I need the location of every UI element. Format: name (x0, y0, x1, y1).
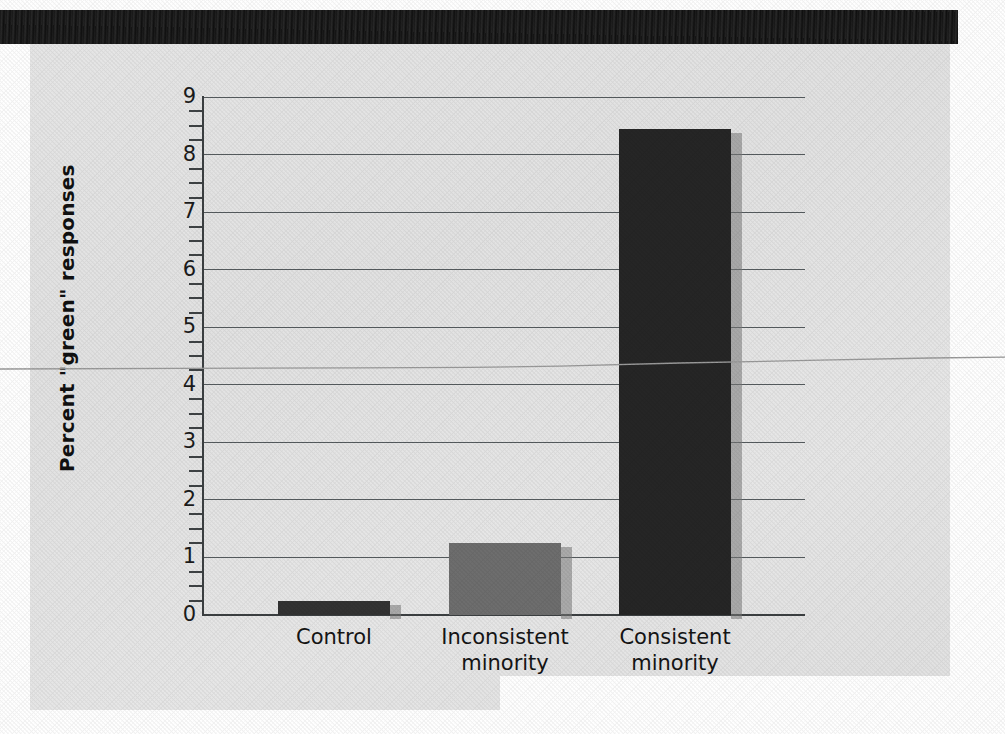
scanned-page: 0123456789 Percent "green" responses Con… (0, 0, 1005, 734)
bar-control (278, 601, 390, 615)
bar-body (449, 543, 561, 615)
bar-consistent-minority (619, 129, 731, 615)
bar-shadow (390, 605, 401, 619)
bar-chart: 0123456789 Percent "green" responses Con… (0, 0, 1005, 734)
bar-body (278, 601, 390, 615)
x-label-control: Control (234, 624, 434, 650)
bar-inconsistent-minority (449, 543, 561, 615)
x-label-line: Consistent (575, 624, 775, 650)
x-label-line: Control (234, 624, 434, 650)
x-label-line: minority (575, 650, 775, 676)
x-label-consistent-minority: Consistentminority (575, 624, 775, 676)
bar-shadow (731, 133, 742, 619)
bar-body (619, 129, 731, 615)
bars-layer (0, 0, 1005, 615)
bar-shadow (561, 547, 572, 619)
